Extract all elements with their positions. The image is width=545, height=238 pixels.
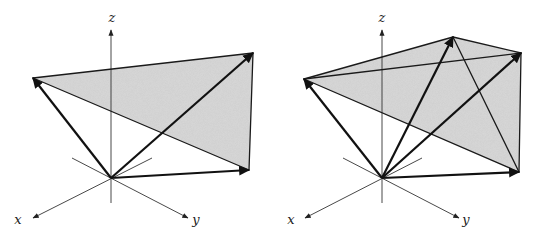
z-axis-label: z — [378, 10, 386, 25]
x-axis — [305, 158, 422, 218]
y-axis-label: y — [191, 212, 200, 227]
figure: zxy zxy — [0, 0, 545, 238]
z-axis-label: z — [108, 10, 116, 25]
vector-C — [382, 172, 519, 178]
shaded-face — [33, 53, 253, 170]
vector-C — [111, 170, 249, 178]
y-axis-label: y — [461, 212, 470, 227]
panel-right-tetrahedron: zxy — [287, 10, 521, 227]
x-axis-label: x — [14, 212, 22, 227]
x-axis-label: x — [287, 212, 295, 227]
panel-left-triangle: zxy — [14, 10, 253, 227]
y-axis — [343, 158, 459, 218]
vector-diagram: zxy zxy — [0, 0, 545, 238]
y-axis — [72, 158, 188, 218]
x-axis — [33, 158, 152, 218]
